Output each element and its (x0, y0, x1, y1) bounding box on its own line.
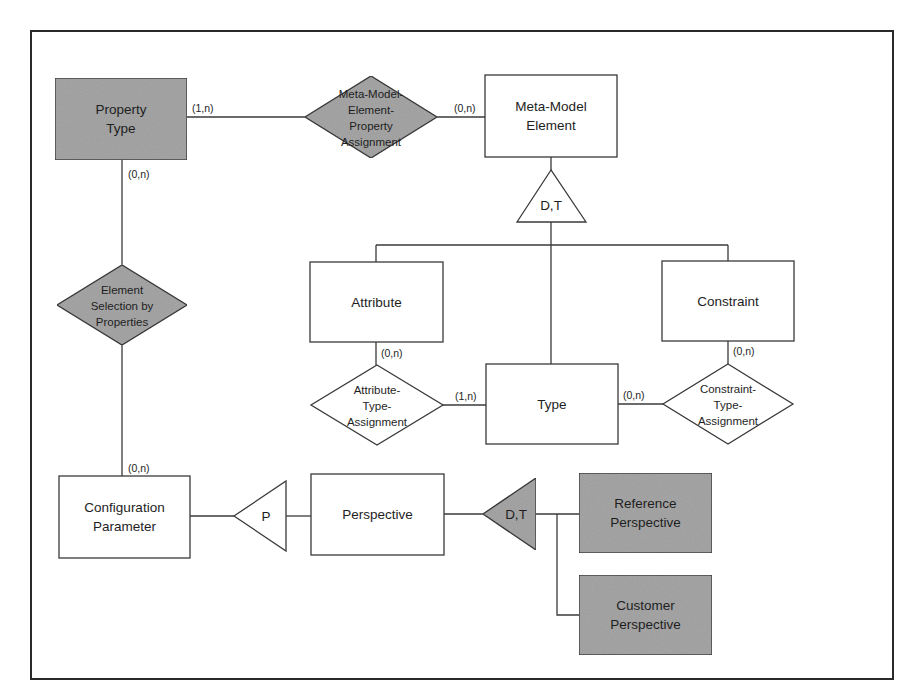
entity-constraint[interactable]: Constraint (662, 261, 794, 341)
relationship-meta-model-element-property-assignment[interactable]: Meta-Model-Element-PropertyAssignment (305, 76, 437, 158)
entity-box (579, 473, 712, 553)
gen-meta-model-element[interactable]: D,T (517, 170, 586, 222)
entity-configuration-parameter[interactable]: ConfigurationParameter (59, 476, 190, 558)
gen-perspective[interactable]: D,T (483, 478, 536, 550)
entity-perspective[interactable]: Perspective (311, 474, 444, 555)
entity-type[interactable]: Type (486, 364, 618, 444)
relationship-element-selection-by-properties[interactable]: ElementSelection byProperties (57, 265, 187, 345)
diagram-shapes: PropertyTypeMeta-ModelElementAttributeCo… (55, 75, 794, 655)
cardinality-label: (0,n) (128, 168, 150, 180)
cardinality-label: (1,n) (192, 102, 214, 114)
connector-line (557, 514, 579, 615)
gen-configuration-parameter[interactable]: P (234, 481, 286, 551)
entity-label: Attribute (351, 295, 401, 310)
generalization-label: P (261, 509, 270, 524)
relationship-attribute-type-assignment[interactable]: Attribute-Type-Assignment (311, 365, 443, 445)
cardinality-label: (1,n) (455, 390, 477, 402)
entity-box (485, 75, 617, 157)
entity-property-type[interactable]: PropertyType (55, 78, 187, 160)
relationship-constraint-type-assignment[interactable]: Constraint-Type-Assignment (663, 364, 793, 444)
cardinality-label: (0,n) (623, 389, 645, 401)
cardinality-label: (0,n) (733, 345, 755, 357)
generalization-triangle (234, 481, 286, 551)
entity-box (59, 476, 190, 558)
entity-label: Type (537, 397, 566, 412)
generalization-triangle (517, 170, 586, 222)
cardinality-label: (0,n) (454, 102, 476, 114)
entity-customer-perspective[interactable]: CustomerPerspective (579, 575, 712, 655)
entity-box (579, 575, 712, 655)
entity-meta-model-element[interactable]: Meta-ModelElement (485, 75, 617, 157)
cardinality-label: (0,n) (128, 462, 150, 474)
er-diagram: PropertyTypeMeta-ModelElementAttributeCo… (0, 0, 917, 699)
generalization-label: D,T (540, 198, 562, 213)
entity-label: Constraint (697, 294, 759, 309)
entity-label: Perspective (342, 507, 413, 522)
generalization-label: D,T (505, 507, 527, 522)
entity-reference-perspective[interactable]: ReferencePerspective (579, 473, 712, 553)
entity-attribute[interactable]: Attribute (310, 262, 443, 342)
entity-box (55, 78, 187, 160)
cardinality-label: (0,n) (381, 347, 403, 359)
